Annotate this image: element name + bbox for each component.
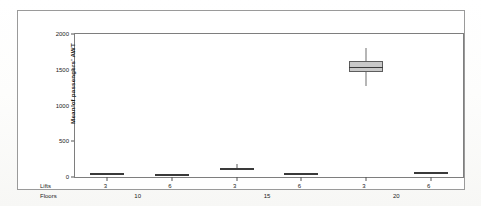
y-tick-1500: 1500 (33, 67, 73, 73)
y-tick-mark (71, 34, 74, 35)
y-tick-mark (71, 105, 74, 106)
x-lift-label-20-3: 3 (362, 183, 365, 189)
plot-panel: Mean of passengers' AWT 0500100015002000 (74, 33, 464, 178)
x-floor-label-20: 20 (393, 193, 400, 199)
box-iqr (284, 173, 318, 175)
boxplot-floors-10-lifts-3 (90, 34, 124, 177)
x-floor-label-10: 10 (134, 193, 141, 199)
x-lift-label-10-3: 3 (104, 183, 107, 189)
x-floor-label-15: 15 (264, 193, 271, 199)
x-lift-label-20-6: 6 (427, 183, 430, 189)
x-tick-mark-1 (172, 177, 173, 181)
y-tick-1000: 1000 (33, 103, 73, 109)
boxplot-floors-15-lifts-3 (220, 34, 254, 177)
y-tick-0: 0 (33, 174, 73, 180)
floors-row-title: Floors (40, 193, 57, 199)
x-tick-mark-4 (366, 177, 367, 181)
y-tick-mark (71, 69, 74, 70)
boxplot-floors-15-lifts-6 (284, 34, 318, 177)
x-lift-label-10-6: 6 (168, 183, 171, 189)
x-lift-label-15-6: 6 (298, 183, 301, 189)
x-tick-mark-0 (107, 177, 108, 181)
y-tick-mark (71, 141, 74, 142)
x-lift-label-15-3: 3 (233, 183, 236, 189)
box-iqr (414, 172, 448, 174)
box-iqr (90, 173, 124, 175)
y-tick-500: 500 (33, 138, 73, 144)
y-tick-mark (71, 177, 74, 178)
boxplot-floors-20-lifts-6 (414, 34, 448, 177)
figure-outer-frame: Mean of passengers' AWT 0500100015002000… (17, 10, 465, 190)
x-tick-mark-3 (301, 177, 302, 181)
boxplot-figure: Mean of passengers' AWT 0500100015002000… (0, 0, 481, 206)
box-iqr (220, 168, 254, 170)
median-line (349, 67, 383, 68)
y-tick-2000: 2000 (33, 31, 73, 37)
lifts-row-title: Lifts (40, 183, 51, 189)
boxplot-floors-10-lifts-6 (155, 34, 189, 177)
x-tick-mark-5 (430, 177, 431, 181)
x-tick-mark-2 (236, 177, 237, 181)
whisker-upper (366, 48, 367, 62)
boxplot-floors-20-lifts-3 (349, 34, 383, 177)
whisker-lower (366, 72, 367, 86)
